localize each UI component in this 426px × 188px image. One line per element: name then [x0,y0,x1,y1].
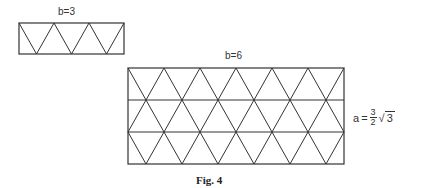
large-grid-label: b=6 [225,50,242,61]
triangle-lattice-diagram [0,0,426,188]
side-length-formula: a = 3 2 √ 3 [353,108,395,127]
formula-equals: = [361,112,367,124]
formula-lhs: a [353,112,359,124]
figure-caption: Fig. 4 [196,174,222,186]
fraction-denominator: 2 [371,118,376,127]
small-grid-label: b=3 [58,6,75,17]
formula-sqrt: √ 3 [379,111,395,124]
formula-fraction: 3 2 [370,108,377,127]
sqrt-radicand: 3 [385,111,395,124]
